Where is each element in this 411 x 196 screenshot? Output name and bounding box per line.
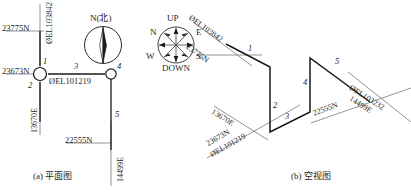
segment-number-1-oblique: 1 (248, 44, 252, 53)
segment-number-3-plan: 3 (74, 62, 78, 71)
panel-a-caption: (a) 平面图 (33, 172, 72, 181)
figure-canvas: 23775N 23673N 22555N ØEL103842 13670E 14… (0, 0, 411, 196)
label-23673N-plan: 23673N (2, 67, 29, 76)
label-14499E-plan: 14499E (117, 157, 125, 182)
segment-number-2-plan: 2 (28, 81, 32, 90)
label-22555N-plan: 22555N (65, 136, 92, 145)
segment-number-4-oblique: 4 (303, 78, 307, 87)
label-23775N-plan: 23775N (2, 24, 29, 33)
label-EL101219-plan: ØEL101219 (49, 77, 91, 86)
compass-west-label: W (146, 52, 155, 61)
panel-b-caption: (b) 空视图 (291, 172, 331, 181)
segment-number-3-oblique: 3 (285, 112, 289, 121)
compass-north-label: N (150, 28, 157, 37)
segment-number-2-oblique: 2 (273, 101, 277, 110)
node-marker-right (106, 69, 116, 79)
segment-number-4-plan: 4 (117, 62, 121, 71)
label-13670E-plan: 13670E (31, 108, 39, 133)
segment-number-5-oblique: 5 (335, 57, 339, 66)
compass-up-label: UP (167, 14, 179, 23)
segment-number-5-plan: 5 (115, 110, 119, 119)
panel-b-geometry (158, 22, 411, 158)
segment-number-1-plan: 1 (43, 57, 47, 66)
north-rose-label: N(北) (90, 14, 112, 23)
label-EL103842-plan: ØEL103842 (45, 2, 54, 44)
compass-down-label: DOWN (162, 64, 190, 73)
node-marker-left (34, 68, 47, 81)
